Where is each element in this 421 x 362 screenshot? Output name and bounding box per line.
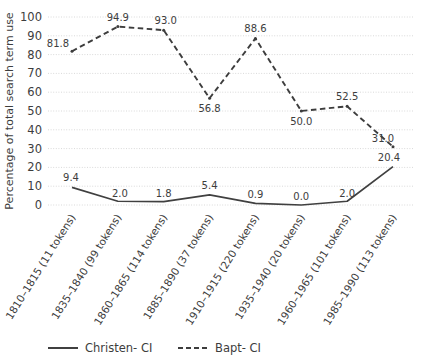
data-point-label: 31.0 (372, 133, 394, 144)
data-point (254, 37, 257, 40)
data-point-label: 93.0 (155, 15, 177, 26)
data-point-label: 56.8 (198, 103, 220, 114)
y-axis-tick-label: 90 (27, 29, 42, 43)
data-point (300, 110, 303, 113)
data-point-label: 0.9 (247, 189, 263, 200)
data-point-label: 81.8 (47, 38, 69, 49)
data-point (392, 145, 395, 148)
data-point (346, 105, 349, 108)
data-point-label: 9.4 (63, 172, 79, 183)
data-point-label: 94.9 (107, 12, 129, 23)
data-point-label: 2.0 (112, 188, 128, 199)
y-axis-tick-label: 70 (27, 66, 42, 80)
data-point (162, 29, 165, 32)
data-point-label: 2.0 (339, 188, 355, 199)
data-point-label: 5.4 (202, 180, 218, 191)
chart-canvas: 0102030405060708090100 Percentage of tot… (0, 0, 421, 362)
data-point-label: 88.6 (244, 23, 266, 34)
y-axis-tick-label: 20 (27, 160, 42, 174)
y-axis-tick-label: 100 (20, 10, 42, 24)
y-axis-title-label: Percentage of total search term use (3, 12, 16, 209)
data-point (208, 97, 211, 100)
data-point-label: 52.5 (336, 91, 358, 102)
y-axis-tick-label: 80 (27, 48, 42, 62)
data-point-label: 20.4 (378, 152, 400, 163)
chart-legend: Christen- CIBapt- CI (48, 341, 261, 355)
y-axis-title: Percentage of total search term use (3, 12, 16, 209)
data-point (71, 50, 74, 53)
gridlines (48, 17, 413, 205)
y-axis-tick-label: 50 (27, 104, 42, 118)
y-axis-tick-label: 40 (27, 123, 42, 137)
data-point (116, 25, 119, 28)
line-chart: 0102030405060708090100 Percentage of tot… (0, 0, 421, 362)
data-series-lines (72, 27, 393, 205)
y-axis-tick-label: 10 (27, 179, 42, 193)
y-axis-tick-label: 0 (35, 198, 42, 212)
data-point-label: 1.8 (156, 188, 172, 199)
data-point-label: 50.0 (290, 116, 312, 127)
y-axis-tick-labels: 0102030405060708090100 (20, 10, 42, 212)
series-line-2 (72, 27, 393, 147)
data-point-label: 0.0 (293, 191, 309, 202)
x-axis-tick-labels: 1810–1815 (11 tokens)1835–1840 (99 token… (3, 212, 399, 327)
legend-label-1: Christen- CI (85, 341, 152, 355)
y-axis-tick-label: 60 (27, 85, 42, 99)
y-axis-tick-label: 30 (27, 142, 42, 156)
legend-label-2: Bapt- CI (215, 341, 261, 355)
